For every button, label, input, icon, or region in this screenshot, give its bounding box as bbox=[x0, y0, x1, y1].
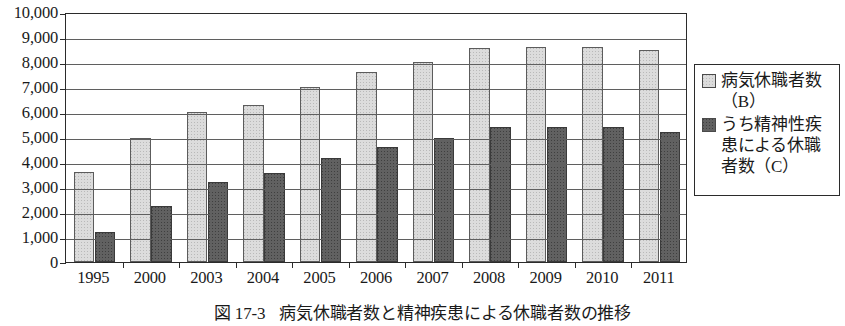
y-tick-label: 0 bbox=[0, 255, 58, 271]
gridline bbox=[66, 164, 686, 165]
x-tick-label: 2003 bbox=[178, 268, 235, 288]
x-tick-label: 1995 bbox=[65, 268, 122, 288]
x-tick-label: 2000 bbox=[122, 268, 179, 288]
y-tick-mark bbox=[60, 64, 66, 65]
y-tick-label: 10,000 bbox=[0, 5, 58, 21]
y-tick-label: 9,000 bbox=[0, 30, 58, 46]
bar-group bbox=[405, 14, 462, 262]
caption-text: 病気休職者数と精神疾患による休職者数の推移 bbox=[279, 304, 631, 323]
figure-caption: 図 17-3病気休職者数と精神疾患による休職者数の推移 bbox=[0, 303, 845, 325]
bar bbox=[356, 72, 377, 262]
bar-group bbox=[292, 14, 349, 262]
bar bbox=[321, 158, 342, 262]
y-tick-label: 3,000 bbox=[0, 180, 58, 196]
bar-group bbox=[123, 14, 180, 262]
x-tick-label: 2005 bbox=[291, 268, 348, 288]
y-tick-label: 7,000 bbox=[0, 80, 58, 96]
bar-group bbox=[236, 14, 293, 262]
legend-entry[interactable]: 病気休職者数（B） bbox=[702, 70, 835, 112]
legend-label: 病気休職者数（B） bbox=[721, 70, 835, 112]
bar bbox=[130, 138, 151, 262]
y-tick-mark bbox=[60, 164, 66, 165]
bar bbox=[547, 127, 568, 262]
bar bbox=[660, 132, 681, 262]
bar bbox=[208, 182, 229, 262]
bar-group bbox=[179, 14, 236, 262]
bar bbox=[526, 47, 547, 262]
dark-gray-swatch bbox=[702, 118, 716, 132]
y-tick-label: 1,000 bbox=[0, 230, 58, 246]
bar-group bbox=[575, 14, 632, 262]
bars-layer bbox=[66, 14, 686, 262]
figure-bar-chart: 10,0009,0008,0007,0006,0005,0004,0003,00… bbox=[0, 0, 845, 326]
y-tick-label: 2,000 bbox=[0, 205, 58, 221]
bar bbox=[490, 127, 511, 262]
y-tick-mark bbox=[60, 39, 66, 40]
x-tick-label: 2006 bbox=[348, 268, 405, 288]
bar bbox=[95, 232, 116, 262]
gridline bbox=[66, 139, 686, 140]
bar-group bbox=[66, 14, 123, 262]
plot-area bbox=[65, 13, 687, 263]
bar bbox=[582, 47, 603, 262]
legend-label: うち精神性疾患による休職者数（C） bbox=[721, 114, 835, 177]
chart-legend: 病気休職者数（B）うち精神性疾患による休職者数（C） bbox=[694, 64, 840, 196]
bar-group bbox=[462, 14, 519, 262]
x-axis: 1995200020032004200520062007200820092010… bbox=[65, 268, 687, 294]
y-tick-mark bbox=[60, 14, 66, 15]
caption-number: 図 17-3 bbox=[214, 304, 265, 323]
y-tick-mark bbox=[60, 89, 66, 90]
gridline bbox=[66, 114, 686, 115]
y-tick-label: 5,000 bbox=[0, 130, 58, 146]
bar bbox=[264, 173, 285, 262]
gridline bbox=[66, 214, 686, 215]
bar bbox=[413, 62, 434, 262]
x-tick-label: 2011 bbox=[630, 268, 687, 288]
light-gray-swatch bbox=[702, 74, 716, 88]
y-axis: 10,0009,0008,0007,0006,0005,0004,0003,00… bbox=[0, 0, 62, 275]
bar bbox=[74, 172, 95, 262]
bar-group bbox=[631, 14, 688, 262]
bar bbox=[603, 127, 624, 262]
gridline bbox=[66, 239, 686, 240]
bar bbox=[639, 50, 660, 263]
gridline bbox=[66, 64, 686, 65]
bar bbox=[469, 48, 490, 262]
y-tick-mark bbox=[60, 139, 66, 140]
x-tick-label: 2009 bbox=[517, 268, 574, 288]
bar-group bbox=[349, 14, 406, 262]
legend-entry[interactable]: うち精神性疾患による休職者数（C） bbox=[702, 114, 835, 177]
x-tick-label: 2008 bbox=[461, 268, 518, 288]
x-tick-label: 2004 bbox=[235, 268, 292, 288]
bar bbox=[434, 138, 455, 262]
x-tick-label: 2007 bbox=[404, 268, 461, 288]
y-tick-mark bbox=[60, 239, 66, 240]
gridline bbox=[66, 189, 686, 190]
y-tick-label: 8,000 bbox=[0, 55, 58, 71]
y-tick-label: 4,000 bbox=[0, 155, 58, 171]
gridline bbox=[66, 39, 686, 40]
gridline bbox=[66, 89, 686, 90]
y-tick-label: 6,000 bbox=[0, 105, 58, 121]
bar-group bbox=[518, 14, 575, 262]
y-tick-mark bbox=[60, 263, 66, 264]
y-tick-mark bbox=[60, 189, 66, 190]
y-tick-mark bbox=[60, 214, 66, 215]
y-tick-mark bbox=[60, 114, 66, 115]
x-tick-label: 2010 bbox=[574, 268, 631, 288]
